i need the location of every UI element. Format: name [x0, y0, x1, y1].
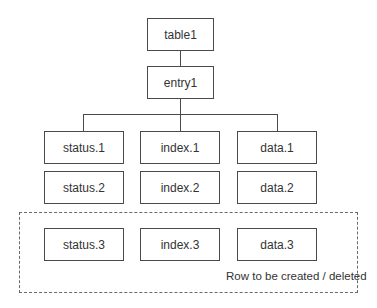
node-label: data.3 [260, 238, 293, 252]
node-entry1: entry1 [147, 66, 214, 99]
connector-bus-index [180, 114, 181, 131]
node-data-3: data.3 [237, 228, 317, 261]
node-label: status.1 [63, 141, 105, 155]
group-caption: Row to be created / deleted [226, 270, 367, 282]
connector-bus-status [83, 114, 84, 131]
node-index-3: index.3 [140, 228, 220, 261]
node-data-2: data.2 [237, 171, 317, 204]
node-data-1: data.1 [237, 131, 317, 164]
connector-table-entry [180, 50, 181, 66]
node-label: entry1 [164, 76, 197, 90]
node-label: data.1 [260, 141, 293, 155]
node-status-2: status.2 [44, 171, 124, 204]
node-status-3: status.3 [44, 228, 124, 261]
connector-entry-bus [180, 98, 181, 114]
node-table1: table1 [147, 18, 214, 51]
node-label: status.2 [63, 181, 105, 195]
node-label: index.3 [161, 238, 200, 252]
node-label: index.1 [161, 141, 200, 155]
node-label: data.2 [260, 181, 293, 195]
node-label: index.2 [161, 181, 200, 195]
node-index-1: index.1 [140, 131, 220, 164]
tree-diagram: table1 entry1 status.1 index.1 data.1 st… [0, 0, 377, 308]
node-label: status.3 [63, 238, 105, 252]
connector-bus-data [277, 114, 278, 131]
node-index-2: index.2 [140, 171, 220, 204]
node-label: table1 [164, 28, 197, 42]
node-status-1: status.1 [44, 131, 124, 164]
